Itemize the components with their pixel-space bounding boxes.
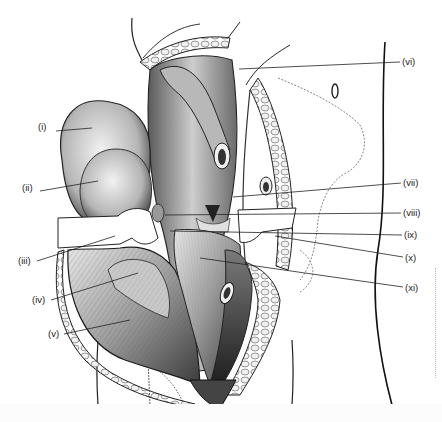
label-ii: (ii) [22, 182, 33, 193]
label-vi: (vi) [402, 56, 415, 67]
label-i: (i) [38, 121, 46, 132]
anatomical-figure: (i) (ii) (iii) (iv) (v) (vi) (vii) (viii… [0, 0, 442, 422]
page-edge-artifact [435, 268, 438, 378]
label-iv: (iv) [32, 294, 45, 305]
illustration-drawing [0, 0, 442, 422]
label-xi: (xi) [405, 282, 418, 293]
bottom-margin [0, 404, 442, 422]
label-iii: (iii) [18, 255, 31, 266]
label-vii: (vii) [403, 177, 418, 188]
label-viii: (viii) [403, 207, 420, 218]
label-x: (x) [405, 252, 416, 263]
label-v: (v) [48, 328, 59, 339]
label-ix: (ix) [404, 229, 417, 240]
